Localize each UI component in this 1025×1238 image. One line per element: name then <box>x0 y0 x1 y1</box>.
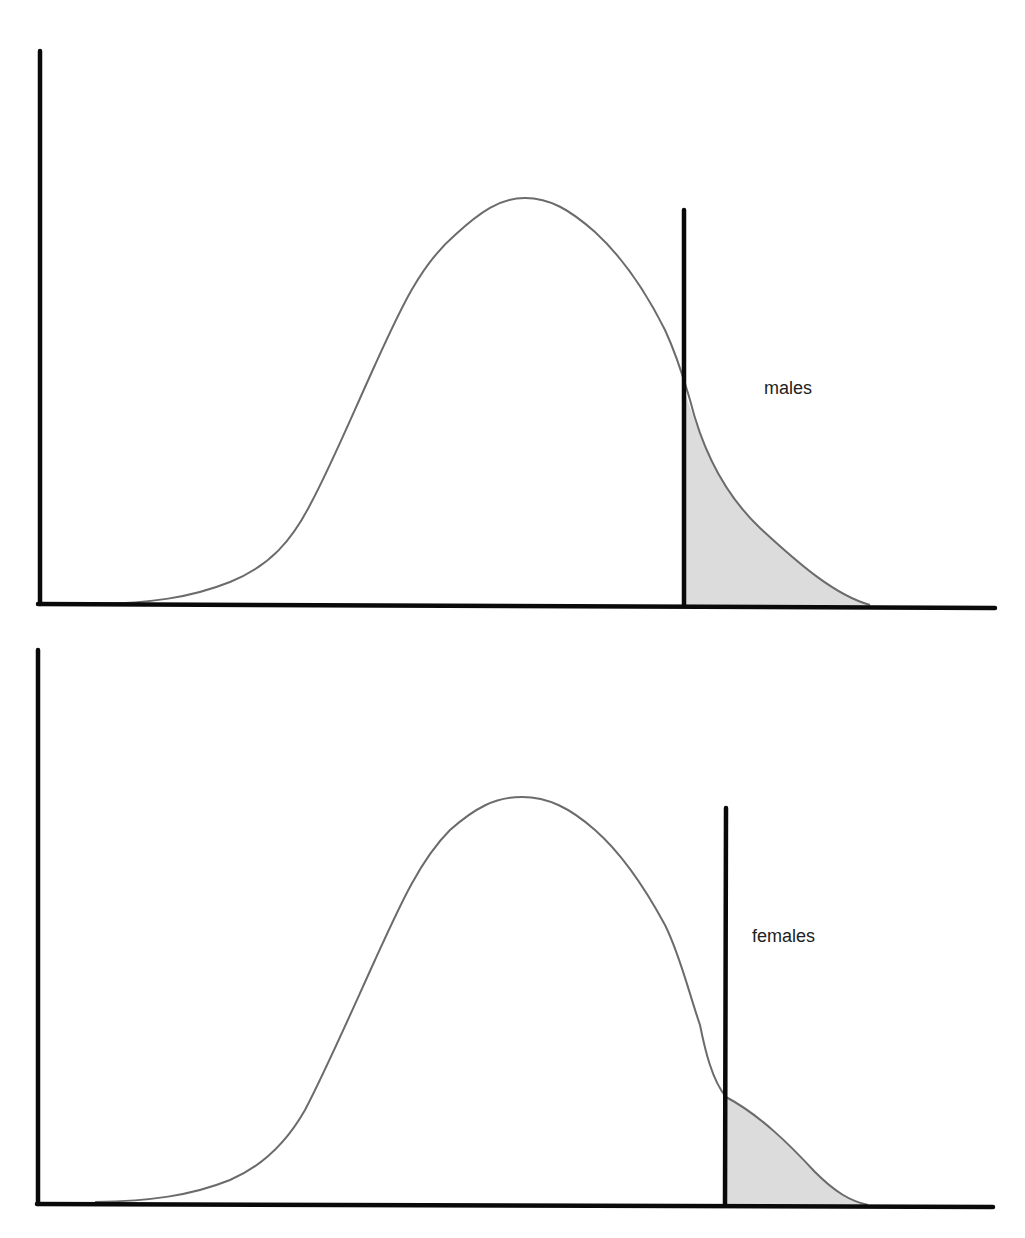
females-panel: females <box>37 650 993 1207</box>
males-label: males <box>764 378 812 398</box>
males-panel: males <box>38 51 995 608</box>
distribution-diagram: males females <box>0 0 1025 1238</box>
females-x-axis <box>37 1204 993 1207</box>
females-shaded-tail <box>726 1097 868 1205</box>
males-shaded-tail <box>685 392 870 605</box>
females-label: females <box>752 926 815 946</box>
females-cutoff-line <box>725 808 726 1205</box>
